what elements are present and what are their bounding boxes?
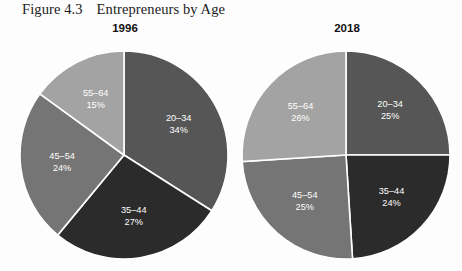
- pie-svg-2018: 20–3425%35–4424%45–5425%55–6426%: [240, 48, 452, 264]
- page-title: Figure 4.3Entrepreneurs by Age: [22, 1, 225, 18]
- pie-slice-value: 27%: [125, 217, 143, 227]
- pie-slice-value: 25%: [381, 111, 399, 121]
- pie-slice-value: 15%: [86, 100, 104, 110]
- pie-slice-label: 20–34: [377, 99, 403, 109]
- pie-slice-value: 26%: [291, 113, 309, 123]
- figure-number: Figure 4.3: [22, 1, 83, 17]
- pie-slice-label: 35–44: [379, 186, 405, 196]
- pie-chart-1996: 20–3434%35–4427%45–5424%55–6415%: [18, 48, 230, 264]
- pie-slice-label: 45–54: [292, 190, 318, 200]
- figure-title-text: Entrepreneurs by Age: [97, 1, 225, 17]
- pie-slice-value: 24%: [382, 198, 400, 208]
- pie-slice-label: 45–54: [49, 151, 75, 161]
- figure-container: Figure 4.3Entrepreneurs by Age 1996 2018…: [0, 0, 462, 271]
- pie-slices-2018: [242, 51, 450, 259]
- chart-caption-2018: 2018: [307, 22, 387, 34]
- pie-slice-value: 34%: [169, 125, 187, 135]
- pie-slice-value: 24%: [53, 163, 71, 173]
- pie-slice-value: 25%: [296, 202, 314, 212]
- chart-caption-1996: 1996: [85, 22, 165, 34]
- pie-chart-2018: 20–3425%35–4424%45–5425%55–6426%: [240, 48, 452, 264]
- pie-slice-label: 55–64: [83, 88, 109, 98]
- pie-slice-label: 35–44: [121, 205, 147, 215]
- pie-slice-label: 55–64: [288, 101, 314, 111]
- pie-slice-label: 20–34: [166, 113, 192, 123]
- pie-svg-1996: 20–3434%35–4427%45–5424%55–6415%: [18, 48, 230, 264]
